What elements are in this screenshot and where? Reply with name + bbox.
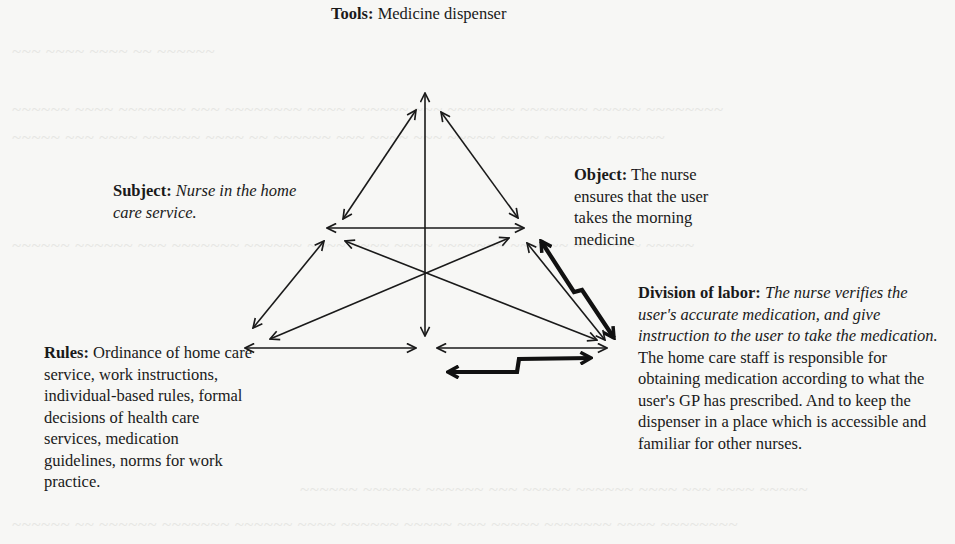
node-rules: Rules: Ordinance of home care service, w… — [44, 342, 254, 493]
node-tools: Tools: Medicine dispenser — [331, 3, 506, 25]
arrow-subject-rules — [253, 241, 324, 328]
rules-heading: Rules: — [44, 343, 89, 362]
node-subject: Subject: Nurse in the home care service. — [113, 180, 313, 223]
tools-heading: Tools: — [331, 4, 374, 23]
node-division-of-labor: Division of labor: The nurse verifies th… — [638, 282, 938, 454]
tools-text: Medicine dispenser — [378, 4, 507, 23]
arrow-object-division — [527, 243, 605, 340]
division-text: The home care staff is responsible for o… — [638, 348, 926, 453]
subject-heading: Subject: — [113, 181, 172, 200]
contradiction-object-division — [541, 241, 614, 338]
object-heading: Object: — [574, 165, 627, 184]
node-object: Object: The nurse ensures that the user … — [574, 164, 744, 250]
rules-text: Ordinance of home care service, work ins… — [44, 343, 252, 491]
arrow-subject-tools — [343, 110, 416, 219]
arrow-object-tools — [441, 112, 518, 218]
division-heading: Division of labor: — [638, 283, 761, 302]
contradiction-community-division — [448, 358, 591, 372]
arrow-object-rules — [270, 238, 509, 339]
